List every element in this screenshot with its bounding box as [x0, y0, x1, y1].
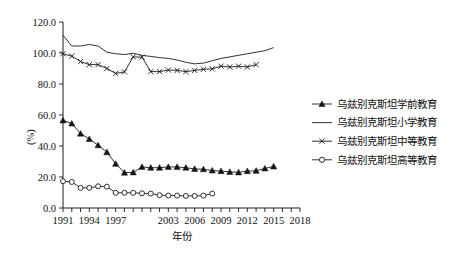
series-line-3: [63, 181, 212, 196]
y-tick-label: 80.0: [38, 79, 56, 90]
series-3-marker: [157, 193, 162, 198]
x-tick-label: 2018: [290, 215, 311, 226]
legend-item-0[interactable]: 乌兹别克斯坦学前教育: [312, 98, 437, 110]
series-3-marker: [87, 185, 92, 190]
x-axis-title: 年份: [172, 230, 193, 242]
series-3-marker: [175, 193, 180, 198]
line-chart: 0.020.040.060.080.0100.0120.019911994199…: [0, 0, 461, 267]
y-tick-label: 0.0: [43, 203, 56, 214]
series-3-marker: [78, 185, 83, 190]
series-3-marker: [192, 193, 197, 198]
legend-item-2[interactable]: 乌兹别克斯坦中等教育: [312, 135, 437, 147]
series-3-marker: [113, 190, 118, 195]
series-0-marker: [271, 163, 277, 169]
x-tick-label: 1994: [79, 215, 101, 226]
series-line-2: [63, 54, 256, 74]
series-0-marker: [95, 142, 101, 148]
legend-label-2: 乌兹别克斯坦中等教育: [337, 135, 437, 147]
legend-label-1: 乌兹别克斯坦小学教育: [337, 116, 437, 128]
series-3-marker: [148, 191, 153, 196]
legend-item-3[interactable]: 乌兹别克斯坦高等教育: [312, 154, 437, 166]
x-tick-label: 2006: [184, 215, 205, 226]
series-3-marker: [104, 184, 109, 189]
series-0-marker: [139, 164, 145, 170]
chart-figure: 0.020.040.060.080.0100.0120.019911994199…: [0, 0, 461, 267]
series-3-marker: [122, 190, 127, 195]
series-3-marker: [96, 184, 101, 189]
x-tick-label: 2003: [158, 215, 179, 226]
series-0-marker: [86, 136, 92, 142]
series-3-marker: [61, 179, 66, 184]
legend-marker-circle: [319, 157, 324, 162]
series-3-marker: [131, 190, 136, 195]
legend-label-3: 乌兹别克斯坦高等教育: [337, 154, 437, 166]
series-3-marker: [183, 193, 188, 198]
series-3-marker: [69, 179, 74, 184]
y-axis-title: (%): [25, 129, 37, 145]
series-3-marker: [210, 191, 215, 196]
series-0-marker: [69, 120, 75, 126]
x-tick-label: 2009: [211, 215, 232, 226]
x-tick-label: 1991: [53, 215, 74, 226]
y-tick-label: 120.0: [32, 17, 56, 28]
x-tick-label: 2015: [263, 215, 284, 226]
y-tick-label: 40.0: [38, 141, 56, 152]
y-tick-label: 100.0: [32, 48, 56, 59]
series-0-marker: [60, 117, 66, 123]
series-3-marker: [140, 191, 145, 196]
x-tick-label: 2012: [237, 215, 258, 226]
series-3-marker: [166, 193, 171, 198]
legend-label-0: 乌兹别克斯坦学前教育: [337, 98, 437, 110]
legend-item-1[interactable]: 乌兹别克斯坦小学教育: [312, 116, 437, 128]
series-line-1: [63, 35, 274, 64]
series-3-marker: [201, 193, 206, 198]
x-tick-label: 1997: [105, 215, 126, 226]
y-tick-label: 20.0: [38, 172, 56, 183]
y-tick-label: 60.0: [38, 110, 56, 121]
